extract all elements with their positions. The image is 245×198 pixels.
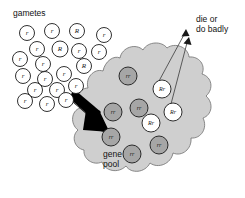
gamete-item: r [30,42,45,57]
organism-circle-homozygous [104,103,122,121]
gamete-item: r [45,24,60,39]
gamete-item: r [13,52,28,67]
thin-arrow-head-2 [184,37,192,45]
gamete-circle [40,97,55,112]
gene-pool-label: genepool [103,149,122,169]
organism-item: rr [150,136,168,154]
gamete-item: R [70,24,85,39]
gamete-circle [92,45,107,60]
gene-pool-line-1: gene [103,149,122,159]
gene-pool-line-2: pool [103,159,119,169]
gamete-circle [13,52,28,67]
outcome-label: die ordo badly [196,14,228,34]
organism-item: Rr [142,114,160,132]
gametes-label: gametes [13,8,46,18]
organism-item: rr [130,99,148,117]
gamete-circle [72,44,87,59]
organism-circle-heterozygous [153,80,171,98]
gamete-item: r [92,45,107,60]
thin-arrow-head-1 [182,29,190,37]
gamete-circle [59,93,74,108]
gene-pool-diagram: r r R r r R r [0,0,245,198]
organism-item: rr [104,103,122,121]
gamete-circle [16,69,31,84]
gamete-circle [18,94,33,109]
outcome-line-2: do badly [196,24,228,34]
organism-circle-heterozygous [164,103,182,121]
gamete-circle [30,42,45,57]
organism-circle-homozygous [102,128,120,146]
gamete-item: R [77,59,92,74]
gamete-item: r [18,94,33,109]
gamete-item: r [59,93,74,108]
organism-circle-homozygous [150,136,168,154]
organism-item: Rr [164,103,182,121]
organism-circle-homozygous [123,145,141,163]
gamete-circle [57,67,72,82]
gamete-item: r [16,69,31,84]
gamete-item: r [97,28,112,43]
gamete-circle [70,24,85,39]
organism-circle-homozygous [130,99,148,117]
gamete-item: r [72,44,87,59]
organism-circle-homozygous [119,67,137,85]
gamete-circle [69,79,84,94]
gamete-item: r [57,67,72,82]
organism-item: rr [123,145,141,163]
gamete-circle [52,41,68,57]
gamete-circle [77,59,92,74]
gamete-circle [97,28,112,43]
gamete-item: R [52,41,68,57]
gamete-item: r [69,79,84,94]
gamete-circle [36,57,51,72]
gamete-item: r [20,26,35,41]
organism-item: rr [102,128,120,146]
outcome-line-1: die or [196,14,217,24]
gamete-item: r [40,97,55,112]
organism-circle-heterozygous [142,114,160,132]
gamete-circle [45,24,60,39]
organism-item: Rr [153,80,171,98]
gamete-item: r [36,57,51,72]
gamete-circle [20,26,35,41]
organism-item: rr [119,67,137,85]
